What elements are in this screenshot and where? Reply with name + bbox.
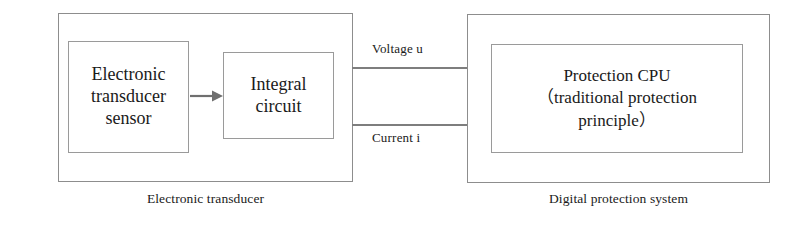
block-protection-cpu: Protection CPU （traditional protection p… <box>491 44 743 153</box>
block-label-integral-circuit: Integral circuit <box>247 74 311 118</box>
caption-electronic-transducer: Electronic transducer <box>58 191 353 207</box>
signal-line-voltage <box>352 67 468 69</box>
signal-label-voltage: Voltage u <box>372 41 423 57</box>
signal-label-current: Current i <box>372 130 420 146</box>
caption-digital-protection-system: Digital protection system <box>467 191 770 207</box>
block-label-protection-cpu: Protection CPU （traditional protection p… <box>533 65 701 131</box>
diagram-canvas: Electronic transducer sensor Integral ci… <box>0 0 805 225</box>
signal-line-current <box>352 124 468 126</box>
block-label-sensor: Electronic transducer sensor <box>87 64 170 130</box>
block-integral-circuit: Integral circuit <box>223 52 334 139</box>
arrow-right-icon <box>190 88 224 104</box>
block-electronic-transducer-sensor: Electronic transducer sensor <box>68 41 189 153</box>
